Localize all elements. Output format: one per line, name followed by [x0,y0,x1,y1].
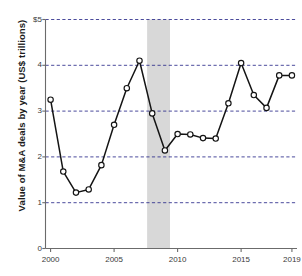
data-point-marker [264,105,269,110]
data-point-marker [188,132,193,137]
data-point-marker [226,101,231,106]
x-axis-tick-label: 2010 [169,255,187,264]
x-axis-tick-label: 2005 [105,255,123,264]
data-point-marker [61,169,66,174]
data-point-marker [73,190,78,195]
y-axis-tick-label: 4 [38,60,42,69]
data-point-marker [86,187,91,192]
chart-container: Value of M&A deals by year (US$ trillion… [0,0,302,276]
data-point-marker [99,162,104,167]
y-axis-tick-label: $5 [33,15,42,24]
data-point-marker [137,58,142,63]
data-point-marker [289,73,294,78]
x-axis-tick-label: 2019 [283,255,301,264]
line-chart-plot [0,0,302,276]
x-axis-tick-label: 2000 [42,255,60,264]
y-axis-tick-label: 2 [38,152,42,161]
y-axis-tick-label: 3 [38,106,42,115]
y-axis-tick-label: 0 [38,244,42,253]
data-point-marker [238,60,243,65]
data-point-marker [124,86,129,91]
data-point-marker [213,136,218,141]
data-series-line [51,61,292,193]
data-point-marker [150,111,155,116]
x-axis-tick-label: 2015 [232,255,250,264]
y-axis-tick-label: 1 [38,198,42,207]
data-point-marker [175,131,180,136]
data-point-marker [48,97,53,102]
data-point-marker [277,73,282,78]
data-point-marker [251,92,256,97]
data-point-marker [162,148,167,153]
data-point-marker [111,122,116,127]
data-point-marker [200,135,205,140]
